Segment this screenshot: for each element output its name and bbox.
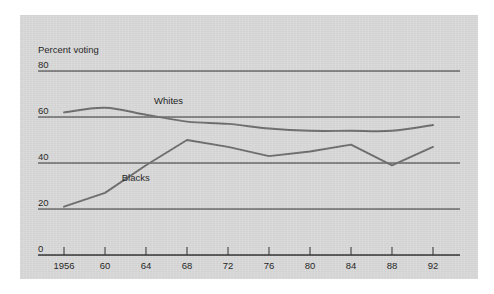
line-chart: Percent voting 80 60 40 20 0 — [20, 15, 478, 279]
x-tick-label-80: 80 — [305, 260, 316, 271]
series-line-whites — [64, 108, 433, 131]
x-tick-label-76: 76 — [264, 260, 275, 271]
series-label-whites: Whites — [154, 95, 183, 106]
y-tick-label-60: 60 — [38, 105, 49, 116]
x-tick-label-1956: 1956 — [53, 260, 74, 271]
chart-header-label: Percent voting — [38, 44, 99, 55]
y-tick-label-0: 0 — [38, 243, 43, 254]
gridlines — [38, 71, 460, 209]
x-tick-label-88: 88 — [387, 260, 398, 271]
x-tick-marks — [64, 247, 433, 255]
series-line-blacks — [64, 140, 433, 207]
y-tick-labels: 80 60 40 20 0 — [38, 59, 49, 254]
x-tick-labels: 1956 60 64 68 72 76 80 84 88 92 — [53, 260, 438, 271]
x-tick-label-72: 72 — [223, 260, 234, 271]
x-tick-label-68: 68 — [182, 260, 193, 271]
x-tick-label-84: 84 — [346, 260, 357, 271]
y-tick-label-80: 80 — [38, 59, 49, 70]
chart-plate: Percent voting 80 60 40 20 0 — [20, 15, 478, 279]
x-tick-label-92: 92 — [428, 260, 439, 271]
data-series-group — [64, 108, 433, 207]
x-tick-label-64: 64 — [141, 260, 152, 271]
x-axis-title: Year — [239, 278, 258, 279]
figure-canvas: Percent voting 80 60 40 20 0 — [0, 0, 494, 294]
y-tick-label-40: 40 — [38, 151, 49, 162]
y-tick-label-20: 20 — [38, 197, 49, 208]
series-label-blacks: Blacks — [122, 172, 150, 183]
x-tick-label-60: 60 — [100, 260, 111, 271]
